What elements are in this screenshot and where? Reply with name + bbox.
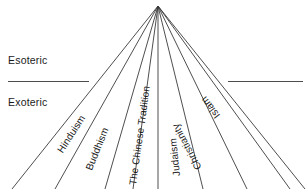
- tier-label-exoteric: Exoteric: [8, 97, 48, 108]
- fan-lines-svg: [0, 0, 307, 189]
- diagram-canvas: Esoteric Exoteric Hinduism Buddhism The …: [0, 0, 307, 189]
- tier-label-esoteric: Esoteric: [8, 55, 48, 66]
